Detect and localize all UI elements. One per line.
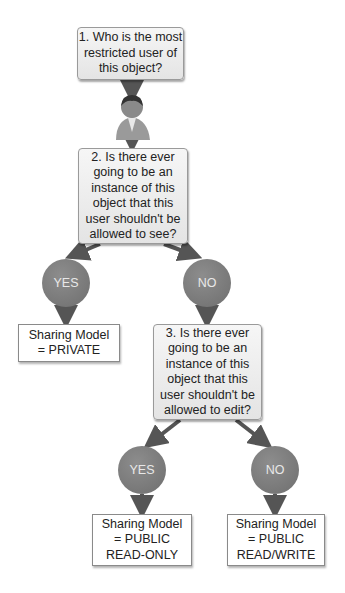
question-1-text: 1. Who is the most restricted user of th…: [78, 30, 183, 77]
result-public-read-write-box: Sharing Model = PUBLIC READ/WRITE: [227, 514, 325, 566]
result-private-box: Sharing Model = PRIVATE: [18, 324, 120, 362]
result-public-read-write-text: Sharing Model = PUBLIC READ/WRITE: [232, 517, 320, 564]
q3-yes-node: YES: [118, 446, 166, 494]
q2-yes-node: YES: [42, 259, 90, 307]
result-public-read-only-box: Sharing Model = PUBLIC READ-ONLY: [92, 514, 192, 566]
q2-no-label: NO: [198, 276, 217, 290]
q3-no-node: NO: [251, 446, 299, 494]
question-2-box: 2. Is there ever going to be an instance…: [78, 148, 188, 244]
question-2-text: 2. Is there ever going to be an instance…: [83, 150, 183, 243]
result-public-read-only-text: Sharing Model = PUBLIC READ-ONLY: [97, 517, 187, 564]
user-icon: [116, 95, 150, 140]
q3-no-label: NO: [266, 463, 285, 477]
result-private-text: Sharing Model = PRIVATE: [25, 328, 113, 359]
q2-no-node: NO: [183, 259, 231, 307]
question-1-box: 1. Who is the most restricted user of th…: [77, 27, 184, 80]
q2-yes-label: YES: [53, 276, 78, 290]
question-3-box: 3. Is there ever going to be an instance…: [153, 324, 262, 420]
question-3-text: 3. Is there ever going to be an instance…: [158, 326, 257, 419]
q3-yes-label: YES: [129, 463, 154, 477]
